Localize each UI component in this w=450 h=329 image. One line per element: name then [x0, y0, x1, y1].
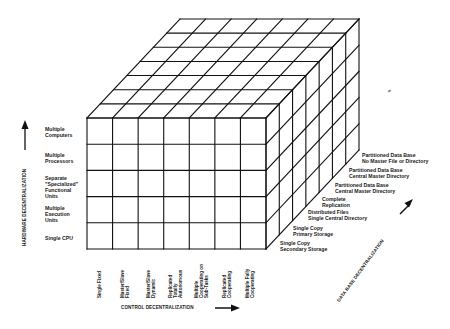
hardware-axis-title: HARDWARE DECENTRALIZATION: [22, 169, 27, 246]
ctrl-level-3: Master/Slave Dynamic: [146, 270, 156, 298]
control-axis-title: CONTROL DECENTRALIZATION: [121, 305, 194, 310]
hw-level-3: Separate "Specialized" Functional Units: [45, 175, 78, 199]
db-level-3: Distributed Files Single Central Directo…: [308, 209, 367, 221]
db-level-1: Single Copy Secondary Storage: [280, 240, 327, 252]
db-level-5: Partitioned Data Base Central Master Dir…: [335, 182, 395, 194]
arrow-diagonal-up-right-icon: [400, 199, 413, 214]
ctrl-level-6: Replicated Cooperating: [222, 271, 232, 298]
arrow-up-icon: [22, 120, 29, 150]
hw-level-2: Multiple Execution Units: [45, 205, 70, 223]
db-level-2: Single Copy Primary Storage: [293, 225, 333, 237]
ctrl-level-2: Master/Slave Fixed: [120, 270, 130, 298]
ctrl-level-1: Single Fixed: [97, 271, 102, 298]
hw-level-4: Multiple Processors: [45, 152, 73, 164]
arrow-right-icon: [215, 305, 240, 312]
db-level-4: Complete Replication: [322, 196, 350, 208]
ctrl-level-4: Replicated Totally Autonomous: [168, 270, 184, 298]
hw-level-1: Single CPU: [45, 235, 73, 241]
ctrl-level-7: Multiple Fully Cooperating: [245, 269, 255, 298]
ctrl-level-5: Multiple Cooperating on Sub-Tasks: [194, 264, 210, 298]
hw-level-5: Multiple Computers: [45, 126, 72, 138]
db-level-6: Partitioned Data Base Central Master Dir…: [349, 167, 409, 179]
db-level-7: Partitioned Data Base No Master File or …: [362, 152, 428, 164]
